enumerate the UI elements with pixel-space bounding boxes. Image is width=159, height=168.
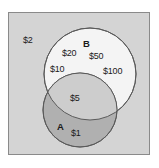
element-1: $1 [71,128,81,138]
element-20: $20 [62,48,76,58]
element-10: $10 [50,64,64,74]
element-100: $100 [103,66,122,76]
set-a-label: A [57,122,64,132]
element-2: $2 [23,35,33,45]
element-50: $50 [89,51,103,61]
venn-diagram-figure: B A $2 $20 $10 $50 $100 $5 $1 [0,0,159,168]
venn-circles-svg [0,0,159,168]
set-b-label: B [83,39,90,49]
element-5: $5 [70,93,80,103]
